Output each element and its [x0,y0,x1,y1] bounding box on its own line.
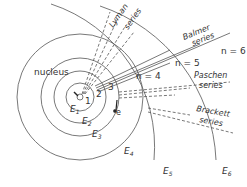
energy-label-e5: E5 [163,166,173,177]
energy-label-e1: E1 [70,104,80,115]
energy-label-e4: E4 [124,146,134,157]
orbit-number-3: 3 [108,82,114,92]
orbit-number-1: 1 [85,96,91,106]
orbit-number-2: 2 [96,89,102,99]
nucleus-label: nucleus [34,67,69,77]
orbit-e4 [17,34,143,160]
energy-label-e6: E6 [222,166,232,177]
electron-label: e [116,108,121,117]
paschen-series-subtitle: series [199,81,223,90]
hydrogen-energy-level-diagram: nucleus e 1 2 3 E1 E2 E3 E4 E5 E6 n = 4 … [0,0,247,187]
n6-label: n = 6 [221,46,246,56]
n5-label: n = 5 [175,58,200,68]
energy-label-e2: E2 [82,116,92,127]
paschen-series-title: Paschen [194,71,227,80]
n4-label: n = 4 [136,71,161,81]
